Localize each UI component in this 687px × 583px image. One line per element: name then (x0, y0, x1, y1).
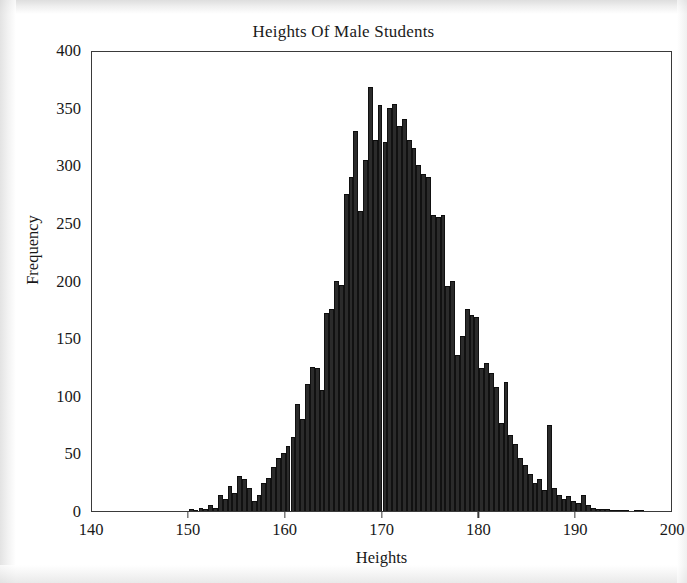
chart-title: Heights Of Male Students (0, 22, 687, 42)
y-axis-tick-label: 350 (33, 99, 81, 119)
x-axis-tick-label: 190 (545, 520, 605, 540)
x-axis-tick-label: 140 (61, 520, 121, 540)
scan-edge-right (677, 0, 687, 583)
y-axis-tick-label: 400 (33, 41, 81, 61)
plot-area (91, 51, 672, 512)
x-axis-tick-label: 150 (158, 520, 218, 540)
scan-edge-top (0, 0, 687, 14)
histogram-bar (625, 510, 630, 511)
y-axis-tick-label: 0 (33, 502, 81, 522)
histogram-bars (92, 52, 671, 511)
y-axis-title: Frequency (23, 185, 43, 315)
x-axis-tick-mark (478, 512, 479, 518)
x-axis-title: Heights (91, 548, 672, 568)
x-axis-tick-label: 170 (352, 520, 412, 540)
figure-canvas: Heights Of Male Students Frequency Heigh… (0, 0, 687, 583)
scan-edge-left (0, 0, 16, 583)
y-axis-tick-label: 300 (33, 156, 81, 176)
x-axis-tick-mark (381, 512, 382, 518)
x-axis-tick-label: 200 (642, 520, 687, 540)
x-axis-tick-mark (284, 512, 285, 518)
x-axis-tick-label: 160 (255, 520, 315, 540)
x-axis-tick-label: 180 (448, 520, 508, 540)
y-axis-tick-label: 100 (33, 387, 81, 407)
y-axis-tick-label: 250 (33, 214, 81, 234)
y-axis-tick-label: 50 (33, 444, 81, 464)
y-axis-tick-label: 200 (33, 272, 81, 292)
histogram-bar (639, 510, 644, 511)
y-axis-tick-label: 150 (33, 329, 81, 349)
x-axis-tick-mark (575, 512, 576, 518)
x-axis-tick-mark (187, 512, 188, 518)
